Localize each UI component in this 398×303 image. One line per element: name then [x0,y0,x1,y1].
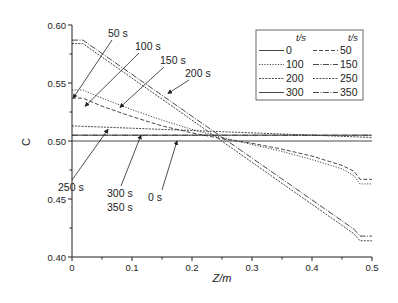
annotation-arrow [168,80,189,93]
legend: t/st/s050100150200250300350 [256,30,363,100]
legend-header: t/s [348,32,358,43]
annotations: 50 s100 s150 s200 s250 s300 s350 s0 s [58,27,211,213]
legend-header: t/s [296,32,306,43]
annotation-arrow [121,135,141,186]
annotation-label: 300 s [107,187,133,199]
y-tick-label: 0.55 [48,78,67,89]
annotation-label: 50 s [108,27,128,39]
annotation-arrow [85,53,139,106]
x-axis-label: Z/m [212,272,232,284]
series-line-50 [72,98,372,179]
x-tick-label: 0.4 [305,262,318,273]
y-tick-label: 0.45 [48,194,67,205]
legend-entry-label: 350 [340,86,358,98]
x-tick-label: 0.5 [365,262,378,273]
annotation-label: 100 s [135,40,161,52]
annotation-label: 250 s [58,181,84,193]
annotation-arrow [72,129,108,180]
annotation-arrow [120,67,164,107]
line-chart: 00.10.20.30.40.50.400.450.500.550.60 50 … [0,0,398,303]
legend-entry-label: 0 [286,44,292,56]
y-tick-label: 0.40 [48,252,67,263]
annotation-label: 0 s [148,191,162,203]
annotation-label: 200 s [185,67,211,79]
y-tick-label: 0.50 [48,136,67,147]
legend-entry-label: 200 [286,72,304,84]
annotation-label: 150 s [160,54,186,66]
legend-entry-label: 150 [340,58,358,70]
x-tick-label: 0.3 [245,262,258,273]
y-tick-label: 0.60 [48,20,67,31]
legend-entry-label: 250 [340,72,358,84]
x-tick-label: 0 [69,262,74,273]
y-axis-label: C [20,138,32,146]
legend-entry-label: 50 [340,44,352,56]
x-tick-label: 0.1 [125,262,138,273]
x-tick-label: 0.2 [185,262,198,273]
annotation-arrow [73,40,112,98]
legend-entry-label: 300 [286,86,304,98]
annotation-arrow [162,141,177,190]
annotation-label: 350 s [107,201,133,213]
series-line-250 [72,126,372,138]
legend-entry-label: 100 [286,58,304,70]
